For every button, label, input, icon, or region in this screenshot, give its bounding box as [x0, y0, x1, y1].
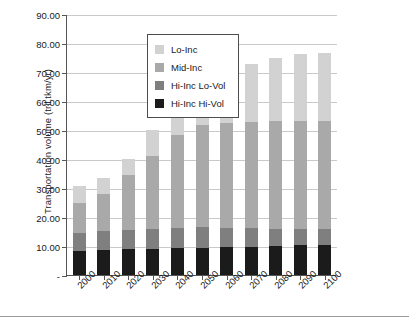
legend: Lo-IncMid-IncHi-Inc Lo-VolHi-Inc Hi-Vol	[147, 34, 239, 118]
legend-item-hi-inc-lo-vol[interactable]: Hi-Inc Lo-Vol	[155, 76, 232, 94]
bar-segment-lo-inc[interactable]	[318, 53, 331, 121]
bar-2080[interactable]	[269, 58, 282, 275]
legend-label: Hi-Inc Lo-Vol	[171, 80, 225, 91]
bar-segment-mid-inc[interactable]	[294, 121, 307, 229]
footer-divider	[0, 316, 409, 317]
bar-segment-lo-inc[interactable]	[245, 64, 258, 122]
plot-area: -10.0020.0030.0040.0050.0060.0070.0080.0…	[66, 15, 336, 276]
bar-2030[interactable]	[146, 130, 159, 275]
bar-segment-lo-inc[interactable]	[269, 58, 282, 121]
bar-segment-hi-inc-lo-vol[interactable]	[245, 228, 258, 246]
legend-label: Lo-Inc	[171, 44, 197, 55]
bar-segment-hi-inc-hi-vol[interactable]	[220, 247, 233, 275]
legend-item-mid-inc[interactable]: Mid-Inc	[155, 58, 232, 76]
bar-segment-hi-inc-hi-vol[interactable]	[97, 250, 110, 275]
bar-segment-hi-inc-lo-vol[interactable]	[122, 230, 135, 250]
bar-segment-hi-inc-hi-vol[interactable]	[146, 249, 159, 275]
bar-segment-lo-inc[interactable]	[146, 130, 159, 156]
bar-segment-mid-inc[interactable]	[171, 135, 184, 228]
bar-segment-mid-inc[interactable]	[245, 122, 258, 229]
legend-item-hi-inc-hi-vol[interactable]: Hi-Inc Hi-Vol	[155, 94, 232, 112]
bar-segment-hi-inc-lo-vol[interactable]	[171, 228, 184, 249]
legend-label: Mid-Inc	[171, 62, 202, 73]
y-tick-label: 30.00	[36, 184, 60, 195]
y-tick-label: 20.00	[36, 213, 60, 224]
transportation-volume-chart: Transportation volume (tril.tkm/yr) -10.…	[0, 0, 409, 327]
bar-segment-hi-inc-hi-vol[interactable]	[171, 248, 184, 275]
bar-segment-lo-inc[interactable]	[73, 186, 86, 203]
bar-2090[interactable]	[294, 54, 307, 275]
bar-segment-hi-inc-hi-vol[interactable]	[73, 251, 86, 275]
legend-label: Hi-Inc Hi-Vol	[171, 98, 224, 109]
bar-segment-lo-inc[interactable]	[97, 178, 110, 193]
y-tick-label: 50.00	[36, 126, 60, 137]
bar-segment-hi-inc-hi-vol[interactable]	[269, 246, 282, 275]
y-tick-label: 70.00	[36, 68, 60, 79]
bar-segment-mid-inc[interactable]	[146, 156, 159, 229]
bar-2010[interactable]	[97, 178, 110, 275]
bar-segment-hi-inc-lo-vol[interactable]	[73, 233, 86, 251]
bar-segment-hi-inc-lo-vol[interactable]	[318, 229, 331, 245]
legend-swatch-icon	[155, 99, 164, 108]
bar-segment-hi-inc-lo-vol[interactable]	[269, 229, 282, 246]
y-tick-mark	[62, 276, 67, 277]
bar-segment-mid-inc[interactable]	[269, 121, 282, 229]
legend-swatch-icon	[155, 45, 164, 54]
bar-2100[interactable]	[318, 53, 331, 275]
legend-swatch-icon	[155, 81, 164, 90]
bar-2020[interactable]	[122, 159, 135, 275]
y-tick-label: 90.00	[36, 10, 60, 21]
bar-segment-hi-inc-hi-vol[interactable]	[318, 245, 331, 275]
bar-segment-hi-inc-lo-vol[interactable]	[220, 228, 233, 247]
bar-segment-hi-inc-lo-vol[interactable]	[146, 229, 159, 249]
y-tick-label: 10.00	[36, 242, 60, 253]
bar-segment-hi-inc-hi-vol[interactable]	[122, 249, 135, 275]
bar-2070[interactable]	[245, 64, 258, 275]
bar-segment-mid-inc[interactable]	[97, 194, 110, 232]
bar-segment-mid-inc[interactable]	[220, 123, 233, 228]
bar-segment-hi-inc-hi-vol[interactable]	[245, 247, 258, 275]
bar-segment-hi-inc-lo-vol[interactable]	[97, 231, 110, 250]
bar-segment-hi-inc-lo-vol[interactable]	[294, 229, 307, 246]
bar-segment-mid-inc[interactable]	[73, 203, 86, 233]
y-tick-label: 40.00	[36, 155, 60, 166]
bar-segment-mid-inc[interactable]	[196, 125, 209, 228]
bar-segment-mid-inc[interactable]	[318, 121, 331, 229]
bar-segment-mid-inc[interactable]	[122, 175, 135, 230]
bar-segment-hi-inc-lo-vol[interactable]	[196, 227, 209, 247]
bar-segment-hi-inc-hi-vol[interactable]	[294, 245, 307, 275]
bar-2000[interactable]	[73, 186, 86, 275]
legend-swatch-icon	[155, 63, 164, 72]
y-axis-title: Transportation volume (tril.tkm/yr)	[42, 17, 53, 267]
y-tick-label: -	[57, 271, 60, 282]
y-tick-label: 80.00	[36, 39, 60, 50]
bar-segment-hi-inc-hi-vol[interactable]	[196, 248, 209, 275]
bar-segment-lo-inc[interactable]	[122, 159, 135, 175]
y-tick-label: 60.00	[36, 97, 60, 108]
bar-2040[interactable]	[171, 108, 184, 275]
bar-segment-lo-inc[interactable]	[294, 54, 307, 121]
legend-item-lo-inc[interactable]: Lo-Inc	[155, 40, 232, 58]
